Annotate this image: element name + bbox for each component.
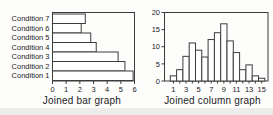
column-rect bbox=[233, 53, 239, 81]
bar-rect bbox=[53, 52, 119, 62]
x-tick-label: 1 bbox=[64, 85, 68, 94]
x-tick-label: 4 bbox=[105, 85, 109, 94]
x-tick-label: 5 bbox=[197, 85, 201, 94]
column-rect bbox=[252, 76, 258, 81]
x-tick-label: 13 bbox=[245, 85, 253, 94]
category-label: Condition 3 bbox=[12, 52, 50, 61]
y-tick-label: 5 bbox=[156, 60, 160, 69]
x-tick-label: 1 bbox=[171, 85, 175, 94]
bar-rect bbox=[53, 33, 91, 43]
bar-rect bbox=[53, 71, 134, 81]
column-rect bbox=[227, 41, 233, 81]
joined-bar-graph-title: Joined bar graph bbox=[12, 95, 152, 106]
x-tick-label: 7 bbox=[209, 85, 213, 94]
x-tick-label: 2 bbox=[78, 85, 82, 94]
x-tick-label: 15 bbox=[257, 85, 265, 94]
x-tick-label: 5 bbox=[119, 85, 123, 94]
column-rect bbox=[221, 24, 227, 81]
y-tick-label: 20 bbox=[152, 8, 160, 17]
category-label: Condition 4 bbox=[12, 43, 50, 52]
category-label: Condition 6 bbox=[12, 24, 50, 33]
x-tick-label: 3 bbox=[91, 85, 95, 94]
column-rect bbox=[170, 76, 176, 81]
column-rect bbox=[246, 65, 252, 81]
category-label: Condition 7 bbox=[12, 14, 50, 23]
column-rect bbox=[259, 78, 265, 81]
joined-column-graph-title: Joined column graph bbox=[146, 95, 273, 106]
bar-rect bbox=[53, 24, 82, 34]
bar-rect bbox=[53, 14, 86, 24]
category-label: Condition 2 bbox=[12, 62, 50, 71]
joined-bar-graph-panel: Condition 7Condition 6Condition 5Conditi… bbox=[0, 0, 140, 115]
x-tick-label: 6 bbox=[132, 85, 136, 94]
y-tick-label: 10 bbox=[152, 42, 160, 51]
x-tick-label: 9 bbox=[222, 85, 226, 94]
y-tick-label: 15 bbox=[152, 25, 160, 34]
x-tick-label: 0 bbox=[50, 85, 54, 94]
x-tick-label: 11 bbox=[233, 85, 241, 94]
column-rect bbox=[177, 70, 183, 81]
category-label: Condition 1 bbox=[12, 71, 50, 80]
footer-band bbox=[0, 108, 273, 115]
category-label: Condition 5 bbox=[12, 33, 50, 42]
column-rect bbox=[202, 57, 208, 81]
column-rect bbox=[214, 33, 220, 81]
column-rect bbox=[208, 40, 214, 81]
joined-column-graph-panel: 0510152013579111315 Joined column graph bbox=[140, 0, 273, 115]
x-tick-label: 3 bbox=[184, 85, 188, 94]
y-tick-label: 0 bbox=[156, 77, 160, 86]
column-rect bbox=[189, 43, 195, 81]
column-rect bbox=[240, 70, 246, 81]
bar-rect bbox=[53, 62, 125, 72]
figure-canvas: Condition 7Condition 6Condition 5Conditi… bbox=[0, 0, 273, 115]
bar-rect bbox=[53, 43, 97, 53]
column-rect bbox=[196, 50, 202, 81]
column-rect bbox=[183, 56, 189, 81]
